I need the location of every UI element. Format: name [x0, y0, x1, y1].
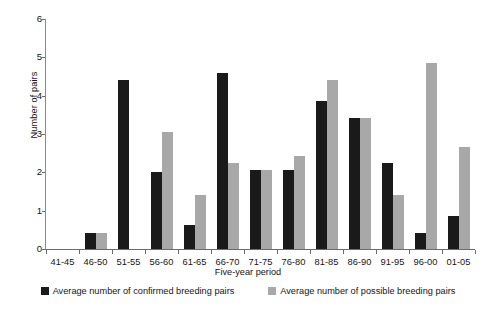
bar-group	[349, 19, 371, 249]
legend-swatch-possible-icon	[268, 287, 276, 295]
y-tick-label: 2	[26, 167, 42, 177]
x-tick-mark	[244, 250, 245, 254]
bar-group	[448, 19, 470, 249]
y-tick-label: 3	[26, 129, 42, 139]
bar-group	[217, 19, 239, 249]
x-tick-mark	[145, 250, 146, 254]
y-tick-label: 1	[26, 206, 42, 216]
bar-group	[382, 19, 404, 249]
bar-group	[283, 19, 305, 249]
bar-confirmed	[283, 170, 294, 249]
bar-group	[151, 19, 173, 249]
x-tick-mark	[211, 250, 212, 254]
bar-confirmed	[316, 101, 327, 249]
bar-confirmed	[85, 233, 96, 249]
bar-confirmed	[349, 118, 360, 249]
legend-label-possible: Average number of possible breeding pair…	[280, 286, 455, 296]
y-tick-label: 0	[26, 244, 42, 254]
bar-possible	[426, 63, 437, 249]
bar-possible	[360, 118, 371, 249]
x-tick-mark	[46, 250, 47, 254]
bar-group	[316, 19, 338, 249]
bar-possible	[96, 233, 107, 249]
bar-possible	[294, 156, 305, 249]
x-tick-mark	[310, 250, 311, 254]
x-tick-label: 01-05	[436, 258, 482, 267]
y-tick-label: 5	[26, 52, 42, 62]
bar-possible	[162, 132, 173, 249]
bar-group	[85, 19, 107, 249]
y-tick-label: 4	[26, 91, 42, 101]
x-tick-mark	[475, 250, 476, 254]
bar-possible	[459, 147, 470, 249]
bar-confirmed	[151, 172, 162, 249]
bar-confirmed	[250, 170, 261, 249]
bar-group	[250, 19, 272, 249]
bar-possible	[228, 163, 239, 249]
x-tick-mark	[277, 250, 278, 254]
x-axis-line	[45, 249, 475, 250]
legend-swatch-confirmed-icon	[41, 287, 49, 295]
bar-possible	[393, 195, 404, 249]
bar-confirmed	[448, 216, 459, 249]
bar-possible	[327, 80, 338, 249]
bar-group	[415, 19, 437, 249]
y-tick-label: 6	[26, 14, 42, 24]
bar-confirmed	[382, 163, 393, 249]
bar-confirmed	[184, 225, 195, 249]
bar-group	[184, 19, 206, 249]
bar-possible	[195, 195, 206, 249]
plot-area	[46, 19, 475, 249]
chart-legend: Average number of confirmed breeding pai…	[0, 286, 496, 296]
legend-item-possible: Average number of possible breeding pair…	[268, 286, 455, 296]
legend-label-confirmed: Average number of confirmed breeding pai…	[53, 286, 235, 296]
x-tick-mark	[376, 250, 377, 254]
bar-chart: Number of pairs 0123456 41-4546-5051-555…	[0, 0, 496, 310]
bar-possible	[261, 170, 272, 249]
x-tick-mark	[178, 250, 179, 254]
x-tick-mark	[79, 250, 80, 254]
x-tick-mark	[442, 250, 443, 254]
x-tick-mark	[343, 250, 344, 254]
legend-item-confirmed: Average number of confirmed breeding pai…	[41, 286, 235, 296]
x-axis-title: Five-year period	[0, 267, 496, 277]
bar-confirmed	[415, 233, 426, 249]
x-tick-mark	[112, 250, 113, 254]
x-tick-mark	[409, 250, 410, 254]
bar-confirmed	[118, 80, 129, 249]
bar-confirmed	[217, 73, 228, 249]
bar-group	[52, 19, 74, 249]
bar-group	[118, 19, 140, 249]
